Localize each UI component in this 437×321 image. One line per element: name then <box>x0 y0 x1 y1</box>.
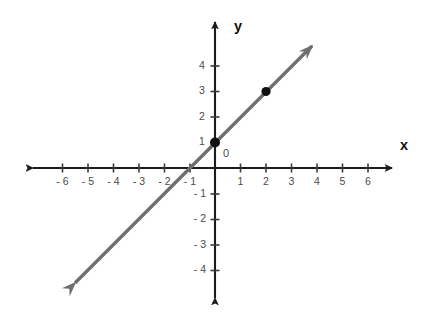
y-tick-label--2: - 2 <box>194 212 206 224</box>
y-tick-label-3: 3 <box>199 84 205 96</box>
x-tick-label--3: - 3 <box>133 175 145 187</box>
y-tick-label--3: - 3 <box>194 238 206 250</box>
x-tick-label-5: 5 <box>340 175 346 187</box>
x-axis-label: x <box>400 137 408 153</box>
axes-group <box>33 22 392 298</box>
x-tick-label-4: 4 <box>314 175 320 187</box>
y-tick-label-4: 4 <box>199 59 205 71</box>
y-tick-label--4: - 4 <box>194 263 206 275</box>
x-tick-label--5: - 5 <box>82 175 94 187</box>
x-tick-label--6: - 6 <box>56 175 68 187</box>
x-axis-tick-labels: - 6 - 5 - 4 - 3 - 2 - 1 1 2 3 4 5 6 <box>56 175 371 187</box>
coordinate-plane-figure: - 6 - 5 - 4 - 3 - 2 - 1 1 2 3 4 5 6 - 4 … <box>0 0 437 321</box>
y-tick-label--1: - 1 <box>194 187 206 199</box>
x-tick-label-3: 3 <box>289 175 295 187</box>
x-tick-label--1: - 1 <box>184 175 196 187</box>
x-tick-label-1: 1 <box>238 175 244 187</box>
point-on-line <box>261 87 270 96</box>
x-tick-label-2: 2 <box>263 175 269 187</box>
graph-canvas: - 6 - 5 - 4 - 3 - 2 - 1 1 2 3 4 5 6 - 4 … <box>0 0 437 321</box>
y-axis-label: y <box>234 18 242 34</box>
origin-label: 0 <box>223 147 229 159</box>
x-tick-label--4: - 4 <box>107 175 119 187</box>
x-tick-label--2: - 2 <box>158 175 170 187</box>
point-y-intercept <box>210 138 220 148</box>
y-tick-label-1: 1 <box>199 135 205 147</box>
y-tick-label-2: 2 <box>199 110 205 122</box>
x-tick-label-6: 6 <box>365 175 371 187</box>
